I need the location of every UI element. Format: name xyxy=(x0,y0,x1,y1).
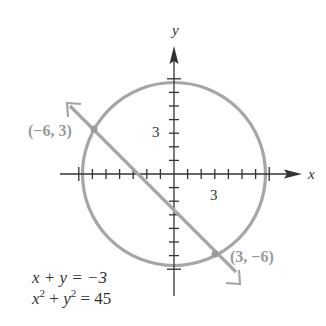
y-tick-label: 3 xyxy=(152,124,160,140)
point-label-2: (3, −6) xyxy=(230,248,274,266)
system-graph: y x 3 3 (−6, 3) (3, −6) x + y = −3 x2 + … xyxy=(0,0,326,326)
line-arrow-lower-icon xyxy=(226,270,240,284)
intersection-point-1 xyxy=(91,126,98,133)
equation-line: x + y = −3 xyxy=(31,268,107,287)
x-tick-label: 3 xyxy=(210,187,218,203)
equation-circle: x2 + y2 = 45 xyxy=(31,287,111,308)
intersection-point-2 xyxy=(212,251,219,258)
y-axis-label: y xyxy=(170,22,179,38)
x-axis-label: x xyxy=(307,166,315,182)
point-label-1: (−6, 3) xyxy=(28,122,72,140)
